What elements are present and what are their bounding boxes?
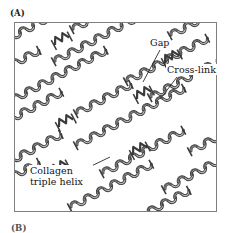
collagen-rod [15,23,76,52]
label-cross-link: Cross-link [166,64,217,75]
cross-link [55,113,77,132]
label-collagen-line1: Collagen [30,165,73,176]
panel-a-letter: (A) [10,9,25,18]
cross-link [51,31,73,50]
collagen-rod [15,46,41,84]
figure-root: (A) [0,0,235,233]
collagen-rod [167,23,216,40]
label-gap: Gap [149,37,170,48]
label-collagen-line2: triple helix [30,176,92,187]
collagen-rod [51,23,164,66]
collagen-rod [99,126,185,178]
collagen-rod [131,186,191,211]
collagen-rod [73,80,133,118]
collagen-rod [187,118,216,156]
panel-b-letter: (B) [11,224,27,233]
collagen-rod [15,88,64,140]
label-collagen-triple-helix: Collagen triple helix [29,165,93,187]
